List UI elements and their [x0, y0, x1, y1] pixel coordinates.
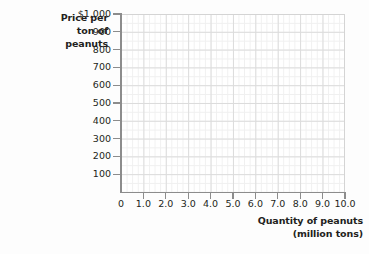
y-axis-tick: [113, 67, 120, 68]
chart-figure: Price per ton of peanuts $1,000900800700…: [0, 0, 369, 254]
y-axis-tick-label: 400: [41, 116, 111, 126]
x-axis-title: Quantity of peanuts (million tons): [180, 215, 363, 240]
y-axis-tick-label: 100: [41, 169, 111, 179]
y-axis-tick: [113, 85, 120, 86]
y-axis-line: [120, 13, 122, 193]
x-axis-tick-label: 10.0: [325, 199, 365, 209]
y-axis-tick-label: 900: [41, 27, 111, 37]
y-axis-tick-label: 800: [41, 45, 111, 55]
y-axis-tick: [113, 138, 120, 139]
y-axis-tick: [113, 31, 120, 32]
y-axis-tick: [113, 13, 120, 14]
y-axis-tick: [113, 49, 120, 50]
y-axis-tick: [113, 156, 120, 157]
plot-frame: [121, 14, 345, 192]
y-axis-tick-label: 600: [41, 80, 111, 90]
y-axis-tick-label: 300: [41, 134, 111, 144]
y-axis-tick: [113, 102, 120, 103]
y-axis-tick-label: 500: [41, 98, 111, 108]
y-axis-tick-label: 700: [41, 62, 111, 72]
y-axis-tick-label: 200: [41, 151, 111, 161]
y-axis-tick: [113, 174, 120, 175]
x-axis-title-line-2: (million tons): [180, 228, 363, 241]
x-axis-title-line-1: Quantity of peanuts: [180, 215, 363, 228]
y-axis-tick-label: $1,000: [41, 9, 111, 19]
y-axis-tick: [113, 120, 120, 121]
plot-area: [121, 14, 345, 192]
